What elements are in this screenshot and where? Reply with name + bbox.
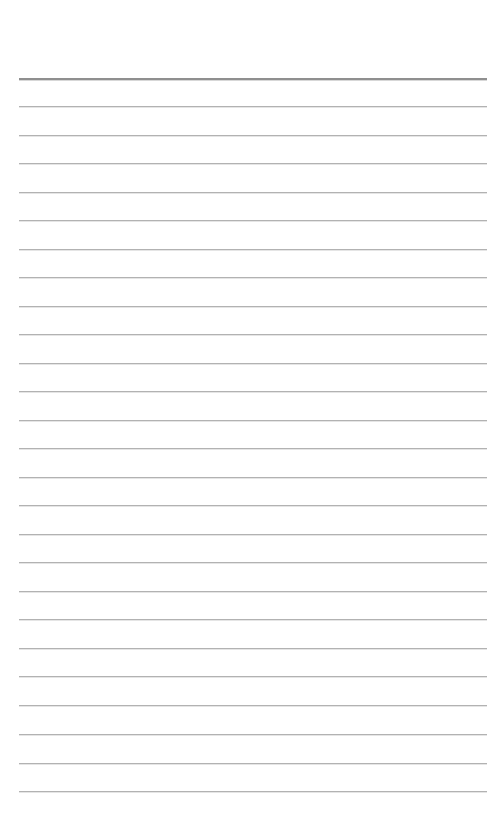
writing-area[interactable] <box>0 0 498 830</box>
lined-notepad-page <box>0 0 498 830</box>
